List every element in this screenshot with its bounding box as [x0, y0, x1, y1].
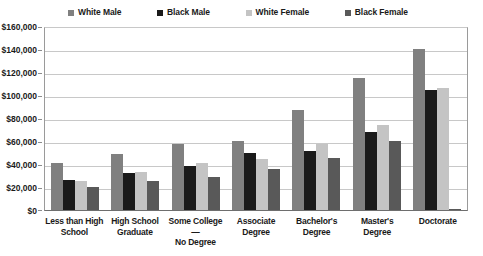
x-axis-category-line: Doctorate	[407, 216, 468, 227]
y-tick-mark	[38, 119, 42, 120]
legend-label: White Female	[256, 8, 310, 17]
y-tick-mark	[38, 27, 42, 28]
x-axis-category-line: Graduate	[105, 227, 166, 238]
y-tick-label: $100,000	[2, 92, 37, 101]
y-axis: $160,000$140,000$120,000$100,000$80,000$…	[0, 27, 42, 211]
grouped-bar-chart: White MaleBlack MaleWhite FemaleBlack Fe…	[0, 0, 483, 256]
legend-swatch-icon	[246, 10, 252, 16]
bar[interactable]	[184, 166, 196, 210]
bar[interactable]	[87, 187, 99, 210]
bar[interactable]	[208, 177, 220, 210]
plot-area	[44, 27, 468, 211]
bar[interactable]	[135, 172, 147, 210]
bar-group	[226, 28, 286, 210]
y-tick-mark	[38, 210, 42, 211]
bar[interactable]	[377, 125, 389, 210]
y-tick-label: $20,000	[6, 184, 37, 193]
legend-swatch-icon	[345, 10, 351, 16]
bar-group	[407, 28, 467, 210]
bar[interactable]	[268, 169, 280, 210]
legend-item-white-male[interactable]: White Male	[68, 8, 121, 17]
bar[interactable]	[292, 110, 304, 210]
bar[interactable]	[365, 132, 377, 210]
bar[interactable]	[413, 49, 425, 210]
y-tick-label: $140,000	[2, 46, 37, 55]
bar-group	[346, 28, 406, 210]
x-axis-category-line: Degree	[286, 227, 347, 238]
bar[interactable]	[256, 159, 268, 210]
y-tick-mark	[38, 165, 42, 166]
x-axis-category-label: AssociateDegree	[226, 213, 287, 253]
y-tick-label: $120,000	[2, 69, 37, 78]
bar[interactable]	[449, 209, 461, 210]
x-axis-category-label: Doctorate	[407, 213, 468, 253]
bar[interactable]	[232, 141, 244, 210]
bar-group	[166, 28, 226, 210]
y-tick-label: $160,000	[2, 23, 37, 32]
bar[interactable]	[147, 181, 159, 210]
bars-layer	[45, 28, 467, 210]
x-axis-category-line: Degree	[347, 227, 408, 238]
bar[interactable]	[425, 90, 437, 210]
x-axis-category-line: Associate	[226, 216, 287, 227]
x-axis-category-label: Master'sDegree	[347, 213, 408, 253]
legend-label: Black Female	[355, 8, 408, 17]
bar[interactable]	[389, 141, 401, 210]
bar[interactable]	[244, 153, 256, 211]
x-axis-category-line: Master's	[347, 216, 408, 227]
y-tick-mark	[38, 142, 42, 143]
y-tick-mark	[38, 96, 42, 97]
legend-label: White Male	[78, 8, 121, 17]
bar[interactable]	[353, 78, 365, 210]
bar[interactable]	[63, 180, 75, 210]
x-axis-category-label: High SchoolGraduate	[105, 213, 166, 253]
chart-legend: White MaleBlack MaleWhite FemaleBlack Fe…	[68, 6, 408, 19]
y-tick-mark	[38, 73, 42, 74]
legend-swatch-icon	[157, 10, 163, 16]
y-tick-label: $0	[28, 207, 37, 216]
legend-label: Black Male	[167, 8, 210, 17]
bar[interactable]	[328, 158, 340, 210]
x-axis-category-line: Some College—	[165, 216, 226, 237]
x-axis: Less than HighSchoolHigh SchoolGraduateS…	[44, 213, 468, 253]
legend-item-black-female[interactable]: Black Female	[345, 8, 408, 17]
y-tick-label: $80,000	[6, 115, 37, 124]
legend-swatch-icon	[68, 10, 74, 16]
x-axis-category-line: High School	[105, 216, 166, 227]
bar-group	[45, 28, 105, 210]
bar-group	[286, 28, 346, 210]
bar[interactable]	[196, 163, 208, 210]
x-axis-category-line: Bachelor's	[286, 216, 347, 227]
x-axis-category-label: Less than HighSchool	[44, 213, 105, 253]
y-tick-mark	[38, 188, 42, 189]
bar[interactable]	[51, 163, 63, 210]
legend-item-black-male[interactable]: Black Male	[157, 8, 210, 17]
y-tick-label: $60,000	[6, 138, 37, 147]
x-axis-category-label: Some College—No Degree	[165, 213, 226, 253]
bar-group	[105, 28, 165, 210]
bar[interactable]	[172, 144, 184, 210]
y-tick-mark	[38, 50, 42, 51]
bar[interactable]	[123, 173, 135, 210]
legend-item-white-female[interactable]: White Female	[246, 8, 310, 17]
x-axis-category-line: Degree	[226, 227, 287, 238]
bar[interactable]	[75, 181, 87, 210]
x-axis-category-line: School	[44, 227, 105, 238]
bar[interactable]	[316, 144, 328, 210]
y-tick-label: $40,000	[6, 161, 37, 170]
x-axis-category-label: Bachelor'sDegree	[286, 213, 347, 253]
x-axis-category-line: No Degree	[165, 237, 226, 248]
x-axis-category-line: Less than High	[44, 216, 105, 227]
bar[interactable]	[304, 151, 316, 210]
bar[interactable]	[437, 88, 449, 210]
bar[interactable]	[111, 154, 123, 210]
